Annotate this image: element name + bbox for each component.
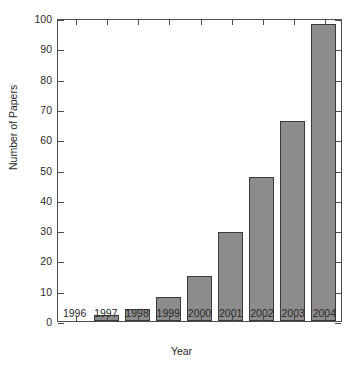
bar-2003[interactable] xyxy=(280,121,305,321)
x-tick-mark-top xyxy=(107,20,108,25)
y-tick-label: 20 xyxy=(10,255,52,267)
x-tick-mark-top xyxy=(232,20,233,25)
y-tick-mark-right xyxy=(335,293,341,294)
bar-2004[interactable] xyxy=(311,24,336,321)
bar-slot xyxy=(153,20,184,321)
y-tick-label: 100 xyxy=(10,13,52,25)
bar-slot xyxy=(215,20,246,321)
bar-slot xyxy=(246,20,277,321)
y-tick-label: 60 xyxy=(10,134,52,146)
x-tick-mark-top xyxy=(138,20,139,25)
y-tick-mark xyxy=(58,172,64,173)
y-tick-mark-right xyxy=(335,232,341,233)
y-tick-label: 30 xyxy=(10,225,52,237)
x-tick-mark-top xyxy=(169,20,170,25)
y-tick-mark xyxy=(58,50,64,51)
y-tick-mark-right xyxy=(335,50,341,51)
y-tick-mark-right xyxy=(335,323,341,324)
plot-area xyxy=(57,19,342,322)
bar-slot xyxy=(91,20,122,321)
y-tick-label: 50 xyxy=(10,165,52,177)
y-tick-label: 90 xyxy=(10,43,52,55)
x-tick-label: 2004 xyxy=(302,307,346,319)
y-tick-mark xyxy=(58,202,64,203)
y-tick-label: 0 xyxy=(10,316,52,328)
y-tick-label: 40 xyxy=(10,195,52,207)
y-tick-label: 10 xyxy=(10,286,52,298)
y-tick-mark xyxy=(58,111,64,112)
y-tick-mark-right xyxy=(335,202,341,203)
y-tick-mark xyxy=(58,323,64,324)
x-tick-mark-top xyxy=(201,20,202,25)
y-tick-mark xyxy=(58,232,64,233)
bar-slot xyxy=(60,20,91,321)
bar-slot xyxy=(277,20,308,321)
y-tick-mark-right xyxy=(335,262,341,263)
figure-canvas: Number of Papers 0102030405060708090100 … xyxy=(0,0,363,366)
y-tick-label: 70 xyxy=(10,104,52,116)
y-tick-mark-right xyxy=(335,20,341,21)
y-tick-mark-right xyxy=(335,172,341,173)
y-tick-mark-right xyxy=(335,111,341,112)
bar-slot xyxy=(308,20,339,321)
y-tick-mark-right xyxy=(335,141,341,142)
x-tick-mark-top xyxy=(294,20,295,25)
bar-slot xyxy=(122,20,153,321)
x-tick-mark-top xyxy=(76,20,77,25)
y-tick-mark xyxy=(58,141,64,142)
y-axis-title: Number of Papers xyxy=(7,85,19,170)
x-tick-mark-top xyxy=(325,20,326,25)
y-tick-mark xyxy=(58,20,64,21)
y-tick-mark xyxy=(58,81,64,82)
bar-slot xyxy=(184,20,215,321)
bars-layer xyxy=(58,20,341,321)
y-tick-mark xyxy=(58,262,64,263)
x-tick-mark-top xyxy=(263,20,264,25)
y-tick-mark xyxy=(58,293,64,294)
y-tick-label: 80 xyxy=(10,74,52,86)
y-tick-mark-right xyxy=(335,81,341,82)
bar-2002[interactable] xyxy=(249,177,274,321)
x-axis-title: Year xyxy=(0,345,363,357)
